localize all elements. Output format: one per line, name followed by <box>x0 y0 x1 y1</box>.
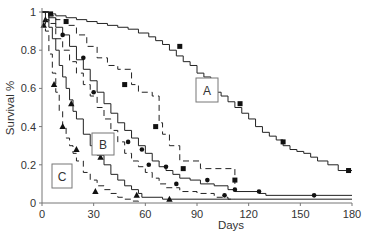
circle-marker <box>126 140 131 145</box>
square-marker <box>153 124 158 129</box>
x-tick-label: 0 <box>39 208 45 220</box>
x-tick-label: 180 <box>343 208 361 220</box>
y-tick-label: 0.2 <box>21 159 36 171</box>
survival-curve-c-solid <box>42 12 352 199</box>
x-tick-label: 90 <box>191 208 203 220</box>
square-marker <box>346 168 351 173</box>
circle-marker <box>257 189 262 194</box>
y-tick-label: 1 <box>30 6 36 18</box>
circle-marker <box>164 164 169 169</box>
triangle-marker <box>68 100 74 106</box>
circle-marker <box>91 90 96 95</box>
circle-marker <box>205 178 210 183</box>
x-axis-title: Days <box>218 219 244 231</box>
circle-marker <box>60 33 65 38</box>
circle-marker <box>146 163 151 168</box>
x-tick-label: 150 <box>291 208 309 220</box>
survival-chart: 030609012015018000.20.40.60.81 A B C Day… <box>0 0 369 240</box>
group-label-c-text: C <box>58 170 67 184</box>
group-label-c: C <box>52 164 72 188</box>
x-tick-label: 30 <box>88 208 100 220</box>
triangle-marker <box>134 192 140 198</box>
triangle-marker <box>41 22 47 28</box>
survival-curve-b-solid <box>42 12 352 195</box>
circle-marker <box>140 147 145 152</box>
square-marker <box>177 44 182 49</box>
triangle-marker <box>73 146 79 152</box>
group-label-b-text: B <box>99 138 107 152</box>
square-marker <box>64 19 69 24</box>
y-tick-label: 0.4 <box>21 121 36 133</box>
group-labels: A B C <box>52 78 218 188</box>
plot-series <box>41 11 352 203</box>
square-marker <box>181 166 186 171</box>
y-axis-title: Survival % <box>4 81 16 135</box>
x-tick-label: 60 <box>139 208 151 220</box>
y-tick-label: 0 <box>30 197 36 209</box>
axes <box>42 8 352 203</box>
square-marker <box>232 178 237 183</box>
group-label-a-text: A <box>203 84 211 98</box>
square-marker <box>122 82 127 87</box>
square-marker <box>281 139 286 144</box>
triangle-marker <box>59 123 65 129</box>
circle-marker <box>233 187 238 192</box>
group-label-a: A <box>196 78 218 102</box>
circle-marker <box>312 193 317 198</box>
triangle-marker <box>51 81 57 87</box>
circle-marker <box>174 182 179 187</box>
circle-marker <box>222 193 227 198</box>
y-tick-label: 0.8 <box>21 44 36 56</box>
group-label-b: B <box>92 133 114 155</box>
square-marker <box>238 101 243 106</box>
y-tick-label: 0.6 <box>21 82 36 94</box>
triangle-marker <box>92 188 98 194</box>
circle-marker <box>81 56 86 61</box>
